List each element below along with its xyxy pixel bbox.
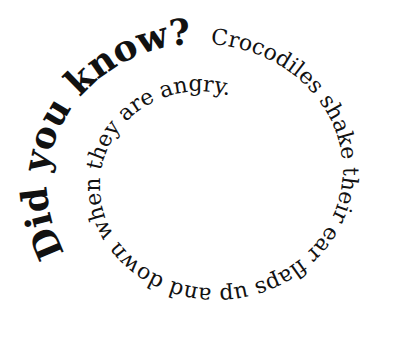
spiral-text-graphic: Did you know? Crocodiles shake their ear… — [0, 0, 404, 341]
spiral-svg: Did you know? Crocodiles shake their ear… — [0, 0, 404, 341]
spiral-text: Did you know? Crocodiles shake their ear… — [13, 10, 363, 309]
